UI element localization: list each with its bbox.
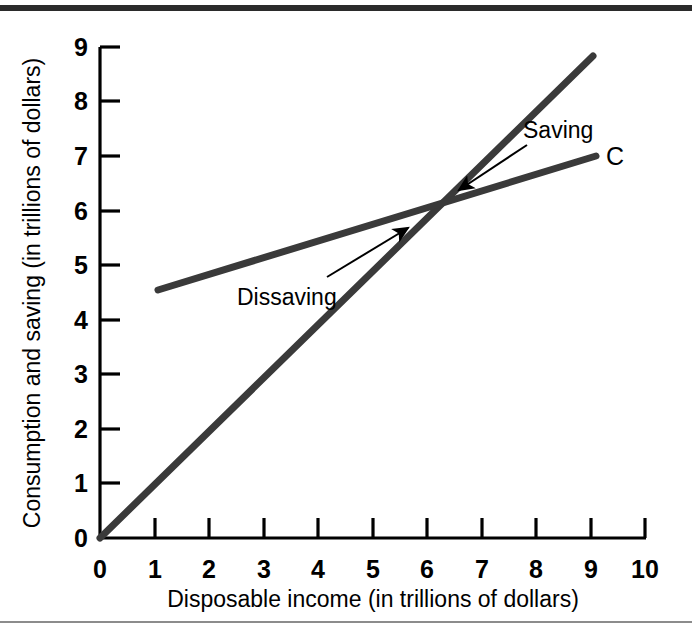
y-axis-title: Consumption and saving (in trillions of …: [19, 58, 45, 528]
y-tick-label-2: 2: [74, 415, 88, 443]
y-tick-label-4: 4: [74, 306, 88, 334]
y-tick-label-3: 3: [74, 360, 88, 388]
y-axis-ticks: [100, 47, 120, 483]
x-axis-title: Disposable income (in trillions of dolla…: [167, 586, 579, 612]
y-tick-label-9: 9: [74, 33, 88, 61]
x-tick-label-9: 9: [584, 555, 598, 583]
x-tick-label-1: 1: [148, 555, 162, 583]
y-tick-label-6: 6: [74, 197, 88, 225]
x-tick-label-0: 0: [93, 555, 107, 583]
y-tick-label-7: 7: [74, 142, 88, 170]
bottom-divider-rule: [0, 621, 692, 623]
x-tick-label-6: 6: [420, 555, 434, 583]
figure-container: 9 8 7 6 5 4 3 2 1 0 0 1 2 3 4 5 6 7 8 9 …: [0, 0, 692, 633]
x-tick-label-5: 5: [366, 555, 380, 583]
y-tick-label-5: 5: [74, 251, 88, 279]
x-tick-label-8: 8: [529, 555, 543, 583]
forty-five-degree-line: [100, 56, 593, 538]
data-series: [100, 56, 596, 538]
x-tick-label-10: 10: [631, 555, 659, 583]
saving-label: Saving: [523, 117, 593, 143]
x-tick-label-2: 2: [202, 555, 216, 583]
y-axis-tick-labels: 9 8 7 6 5 4 3 2 1 0: [74, 33, 88, 552]
y-tick-label-0: 0: [74, 524, 88, 552]
x-axis-ticks: [155, 518, 645, 538]
x-tick-label-3: 3: [257, 555, 271, 583]
x-axis-tick-labels: 0 1 2 3 4 5 6 7 8 9 10: [93, 555, 659, 583]
x-tick-label-7: 7: [475, 555, 489, 583]
y-tick-label-1: 1: [74, 469, 88, 497]
consumption-curve-label: C: [606, 142, 624, 170]
dissaving-label: Dissaving: [237, 284, 337, 310]
y-tick-label-8: 8: [74, 87, 88, 115]
chart-canvas: 9 8 7 6 5 4 3 2 1 0 0 1 2 3 4 5 6 7 8 9 …: [0, 0, 692, 633]
x-tick-label-4: 4: [311, 555, 325, 583]
